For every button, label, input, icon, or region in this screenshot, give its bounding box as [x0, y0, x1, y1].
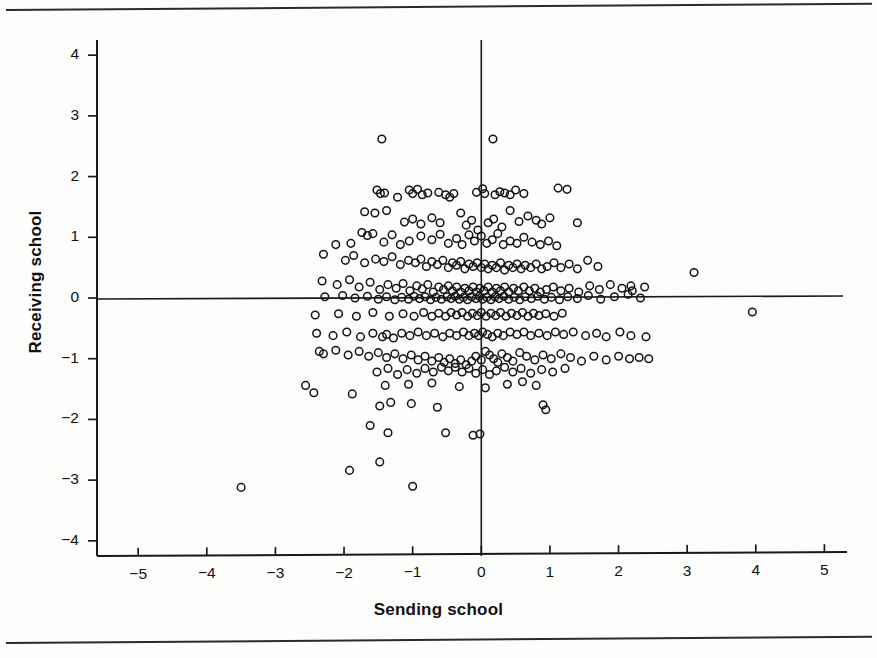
data-point — [490, 215, 498, 223]
data-point — [410, 312, 418, 320]
data-point — [311, 311, 319, 319]
data-point — [484, 219, 492, 227]
data-point — [405, 237, 413, 245]
data-point — [749, 308, 757, 316]
data-point — [408, 400, 416, 408]
y-tick-label: −3 — [39, 470, 79, 488]
data-point — [637, 294, 645, 302]
data-point — [445, 240, 453, 248]
data-point — [479, 185, 487, 193]
data-point — [504, 354, 512, 362]
x-tick-label: −2 — [324, 564, 364, 582]
data-point — [384, 365, 392, 373]
data-point — [515, 218, 523, 226]
data-point — [376, 286, 384, 294]
plot-canvas — [0, 0, 877, 658]
data-point — [535, 329, 543, 337]
scatter-plot-figure: −5−4−3−2−101234543210−1−2−3−4 Sending sc… — [0, 0, 877, 658]
data-point-series — [237, 135, 756, 491]
tick-marks — [88, 55, 824, 556]
data-point — [538, 366, 546, 374]
data-point — [357, 333, 365, 341]
data-point — [520, 283, 528, 291]
data-point — [468, 357, 476, 365]
data-point — [417, 255, 425, 263]
data-point — [380, 238, 388, 246]
x-axis-spine — [97, 552, 847, 556]
data-point — [436, 230, 444, 238]
data-point — [565, 260, 573, 268]
data-point — [428, 214, 436, 222]
data-point — [355, 348, 363, 356]
data-point — [527, 369, 535, 377]
data-point — [371, 209, 379, 217]
data-point — [399, 280, 407, 288]
data-point — [394, 193, 402, 201]
data-point — [424, 281, 432, 289]
data-point — [332, 241, 340, 249]
x-tick-label: −4 — [187, 564, 227, 582]
data-point — [627, 282, 635, 290]
data-point — [543, 332, 551, 340]
data-point — [431, 329, 439, 337]
data-point — [460, 328, 468, 336]
data-point — [391, 350, 399, 358]
data-point — [320, 250, 328, 258]
data-point — [582, 332, 590, 340]
data-point — [626, 355, 634, 363]
data-point — [417, 220, 425, 228]
data-point — [342, 257, 350, 265]
data-point — [557, 287, 565, 295]
data-point — [482, 384, 490, 392]
data-point — [361, 208, 369, 216]
data-point — [550, 259, 558, 267]
data-point — [569, 328, 577, 336]
data-point — [302, 382, 310, 390]
data-point — [574, 265, 582, 273]
data-point — [318, 277, 326, 285]
data-point — [494, 230, 502, 238]
data-point — [627, 332, 635, 340]
data-point — [538, 220, 546, 228]
data-point — [542, 310, 550, 318]
data-point — [586, 282, 594, 290]
data-point — [547, 355, 555, 363]
data-point — [553, 242, 561, 250]
y-axis-title: Receiving school — [26, 162, 46, 402]
data-point — [560, 331, 568, 339]
data-point — [567, 354, 575, 362]
data-point — [517, 365, 525, 373]
data-point — [392, 284, 400, 292]
data-point — [420, 309, 428, 317]
data-point — [343, 328, 351, 336]
data-point — [347, 240, 355, 248]
data-point — [593, 329, 601, 337]
data-point — [641, 283, 649, 291]
data-point — [361, 259, 369, 267]
data-point — [596, 286, 604, 294]
data-point — [442, 429, 450, 437]
data-point — [390, 334, 398, 342]
data-point — [479, 366, 487, 374]
data-point — [471, 237, 479, 245]
data-point — [557, 264, 565, 272]
data-point — [388, 231, 396, 239]
data-point — [384, 429, 392, 437]
data-point — [545, 237, 553, 245]
data-point — [366, 278, 374, 286]
data-point — [394, 371, 402, 379]
data-point — [383, 354, 391, 362]
data-point — [376, 402, 384, 410]
data-point — [594, 263, 602, 271]
y-tick-label: 4 — [39, 45, 79, 63]
x-tick-label: −3 — [255, 564, 295, 582]
data-point — [561, 365, 569, 373]
data-point — [550, 312, 558, 320]
x-tick-label: 0 — [461, 563, 501, 581]
y-tick-label: −4 — [39, 531, 79, 549]
data-point — [329, 332, 337, 340]
data-point — [458, 241, 466, 249]
data-point — [364, 292, 372, 300]
data-point — [602, 333, 610, 341]
data-point — [497, 259, 505, 267]
